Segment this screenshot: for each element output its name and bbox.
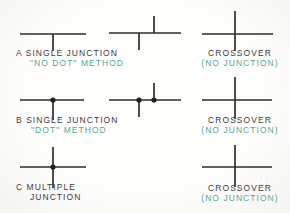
label-crossover-top: CROSSOVER — [179, 49, 290, 58]
crossover-no-junction-bottom — [202, 145, 272, 187]
label-b-single-junction: B SINGLE JUNCTION — [16, 116, 118, 125]
label-a-single-junction: A SINGLE JUNCTION — [16, 49, 118, 58]
single-junction-dot-offset-tees — [109, 83, 181, 117]
label-no-junction-bottom: (NO JUNCTION) — [179, 194, 290, 203]
junction-conventions-figure: A SINGLE JUNCTION "NO DOT" METHOD CROSSO… — [0, 0, 290, 213]
label-c-multiple: C MULTIPLE — [16, 183, 76, 192]
label-dot-method: "DOT" METHOD — [31, 126, 107, 135]
label-no-junction-middle: (NO JUNCTION) — [179, 126, 290, 135]
label-no-junction-top: (NO JUNCTION) — [179, 59, 290, 68]
crossover-no-junction-top — [202, 11, 273, 51]
crossover-no-junction-middle — [202, 77, 272, 119]
junction-dot — [50, 164, 55, 169]
label-c-junction: JUNCTION — [30, 193, 81, 202]
junction-dot — [136, 97, 141, 102]
label-no-dot-method: "NO DOT" METHOD — [30, 59, 124, 68]
junction-dot — [151, 97, 156, 102]
label-crossover-bottom: CROSSOVER — [179, 184, 290, 193]
label-crossover-middle: CROSSOVER — [179, 116, 290, 125]
single-junction-no-dot-offset-tees — [109, 16, 181, 50]
junction-dot — [50, 97, 55, 102]
